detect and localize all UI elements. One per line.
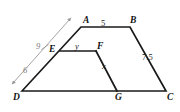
measure-label-fg: x [102,62,106,71]
vertex-label-c: C [167,93,173,103]
vertex-label-d: D [13,93,20,103]
dimension-label-upper: 9 [36,42,40,51]
vertex-label-g: G [115,93,122,103]
dimension-label-lower: 6 [23,66,27,75]
dimension-tick [42,45,49,50]
segment-fg [96,51,117,91]
vertex-label-e: E [49,45,55,55]
geometry-figure: A B C D E F G 5 7.5 y x 9 6 [0,0,180,112]
vertex-label-a: A [83,16,89,26]
vertex-label-b: B [130,16,136,26]
figure-canvas [0,0,180,112]
vertex-label-f: F [97,42,103,52]
measure-label-ab: 5 [101,19,105,28]
measure-label-bc: 7.5 [142,53,153,62]
measure-label-ef: y [75,42,79,51]
